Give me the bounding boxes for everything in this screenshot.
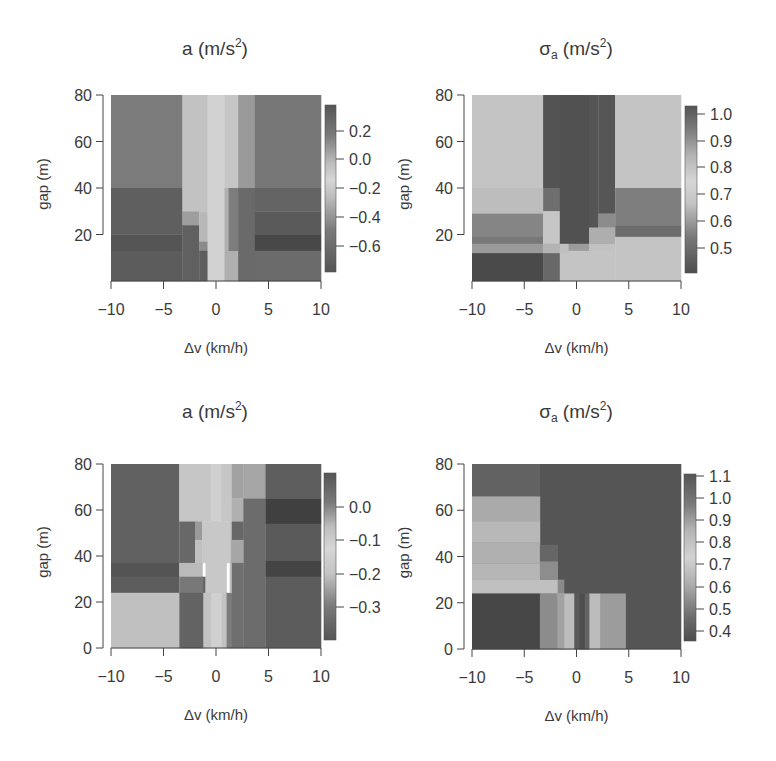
colorbar-tick-label: −0.6 (349, 238, 381, 255)
heatmap-cells (111, 464, 321, 648)
heatmap-cell (589, 244, 615, 251)
heatmap-cell (195, 522, 203, 541)
heatmap-cell (227, 593, 233, 649)
x-tick-label: −5 (515, 301, 533, 318)
heatmap-cell (472, 580, 558, 594)
y-axis-label: gap (m) (395, 527, 412, 579)
heatmap-cell (540, 561, 558, 580)
x-tick-label: 5 (624, 301, 633, 318)
heatmap-cell (243, 464, 265, 499)
colorbar-tick-label: 1.0 (710, 106, 732, 123)
heatmap-cell (229, 188, 239, 251)
colorbar-tick-label: 0.6 (709, 579, 731, 596)
heatmap-cell (540, 594, 558, 650)
y-tick-label: 20 (435, 595, 453, 612)
heatmap-cell (589, 95, 599, 244)
x-tick-label: 5 (264, 668, 273, 685)
heatmap-panel-bottom-right: 020406080gap (m)−10−50510Δv (km/h)σa (m/… (395, 399, 731, 724)
heatmap-cell (265, 577, 321, 649)
heatmap-cell (472, 522, 540, 543)
heatmap-cell (232, 540, 244, 563)
heatmap-cell (230, 522, 232, 594)
heatmap-cell (615, 188, 681, 226)
heatmap-cell (179, 563, 202, 577)
heatmap-cell (255, 251, 321, 281)
colorbar-tick-label: 1.0 (709, 490, 731, 507)
y-axis-label: gap (m) (34, 526, 51, 578)
heatmap-cell (472, 237, 543, 244)
colorbar: 1.00.90.80.70.60.5 (685, 106, 732, 273)
colorbar-tick-label: 0.5 (709, 601, 731, 618)
heatmap-cell (540, 545, 558, 562)
heatmap-cell (111, 95, 183, 188)
colorbar-tick-label: 0.9 (710, 133, 732, 150)
x-tick-label: 5 (624, 669, 633, 686)
x-axis-label: Δv (km/h) (184, 706, 248, 723)
y-tick-label: 20 (74, 594, 92, 611)
heatmap-cell (265, 499, 321, 525)
heatmap-cell (232, 563, 244, 648)
x-axis-label: Δv (km/h) (544, 339, 608, 356)
heatmap-cell (472, 95, 543, 188)
colorbar-tick-label: 0.6 (710, 213, 732, 230)
x-tick-label: −10 (458, 669, 485, 686)
heatmap-cell (472, 496, 540, 522)
x-axis: −10−50510Δv (km/h) (97, 648, 330, 723)
heatmap-cell (111, 464, 180, 563)
colorbar: 1.11.00.90.80.70.60.50.4 (684, 468, 731, 641)
x-tick-label: 5 (264, 301, 273, 318)
y-axis: 020406080gap (m) (395, 456, 464, 658)
y-tick-label: 80 (74, 87, 92, 104)
y-tick-label: 40 (435, 549, 453, 566)
panel-title: σa (m/s2) (539, 399, 613, 425)
colorbar-tick-label: −0.3 (349, 599, 381, 616)
colorbar-tick-label: −0.2 (349, 566, 381, 583)
heatmap-cell (238, 95, 255, 188)
colorbar: 0.20.0−0.2−0.4−0.6 (325, 105, 381, 272)
colorbar-tick-label: 0.0 (349, 499, 371, 516)
heatmap-cell (255, 188, 321, 212)
x-tick-label: 10 (672, 301, 690, 318)
heatmap-cell (585, 594, 590, 650)
y-tick-label: 60 (435, 134, 453, 151)
panel-title: a (m/s2) (182, 399, 248, 422)
heatmap-cell (202, 577, 206, 593)
colorbar-tick-label: −0.2 (349, 180, 381, 197)
x-axis-label: Δv (km/h) (544, 707, 608, 724)
colorbar-tick-label: 0.8 (709, 534, 731, 551)
heatmap-cell (543, 211, 560, 244)
heatmap-cell (580, 594, 586, 650)
heatmap-cell (615, 225, 681, 237)
x-axis-label: Δv (km/h) (184, 339, 248, 356)
x-tick-label: 10 (312, 668, 330, 685)
heatmap-cell (203, 593, 211, 649)
x-tick-label: −5 (515, 669, 533, 686)
heatmap-cell (589, 228, 615, 245)
heatmap-cell (543, 188, 560, 212)
y-tick-label: 80 (74, 456, 92, 473)
heatmap-cell (265, 464, 321, 499)
colorbar-tick-label: 0.2 (349, 123, 371, 140)
heatmap-cell (560, 251, 616, 281)
colorbar-tick-label: 0.7 (709, 556, 731, 573)
heatmap-cell (589, 594, 601, 650)
y-tick-label: 60 (74, 502, 92, 519)
x-tick-label: −5 (154, 301, 172, 318)
heatmap-panel-top-right: 20406080gap (m)−10−50510Δv (km/h)σa (m/s… (395, 36, 732, 356)
y-axis: 020406080gap (m) (34, 456, 103, 657)
heatmap-cell (232, 464, 244, 499)
x-tick-label: 0 (572, 301, 581, 318)
x-tick-label: −5 (154, 668, 172, 685)
heatmap-cell (208, 95, 225, 281)
x-tick-label: 0 (212, 301, 221, 318)
heatmap-cell (255, 95, 321, 188)
heatmap-cell (195, 540, 203, 563)
heatmap-cell (202, 522, 230, 564)
x-axis: −10−50510Δv (km/h) (458, 281, 690, 356)
heatmap-cells (472, 95, 681, 281)
heatmap-cell (543, 244, 560, 254)
heatmap-cell (238, 188, 255, 281)
colorbar-tick-label: 1.1 (709, 468, 731, 485)
y-tick-label: 80 (435, 456, 453, 473)
colorbar-tick-label: 0.0 (349, 151, 371, 168)
